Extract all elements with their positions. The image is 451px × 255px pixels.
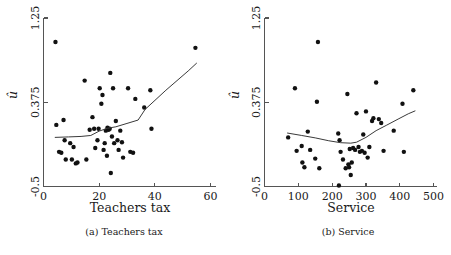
data-point: [114, 119, 118, 123]
data-point: [305, 129, 309, 133]
data-point: [93, 146, 97, 150]
data-point: [118, 128, 122, 132]
data-point: [349, 160, 353, 164]
data-point: [378, 121, 382, 125]
data-point: [99, 101, 103, 105]
data-point: [299, 144, 303, 148]
x-tick-label: 500: [423, 190, 444, 203]
data-point: [411, 88, 415, 92]
data-point: [361, 132, 365, 136]
data-point: [105, 153, 109, 157]
data-points-b: [285, 40, 415, 188]
data-point: [371, 116, 375, 120]
data-point: [365, 155, 369, 159]
data-point: [59, 151, 63, 155]
data-point: [352, 148, 356, 152]
data-point: [348, 173, 352, 177]
data-point: [108, 71, 112, 75]
data-point: [112, 141, 116, 145]
y-ticks-a: -0.50.3751.25: [29, 6, 48, 197]
data-point: [100, 93, 104, 97]
data-point: [96, 127, 100, 131]
y-tick-label: 1.25: [29, 6, 42, 31]
data-point: [346, 165, 350, 169]
x-axis-title-a: Teachers tax: [90, 200, 171, 215]
data-point: [373, 80, 377, 84]
data-point: [116, 148, 120, 152]
data-point: [314, 100, 318, 104]
y-tick-label: 1.25: [249, 6, 262, 31]
y-axis-title-b: û: [227, 91, 242, 99]
y-tick-label: 0.375: [249, 87, 262, 119]
data-point: [109, 171, 113, 175]
data-point: [71, 145, 75, 149]
data-point: [126, 86, 130, 90]
data-point: [98, 86, 102, 90]
data-point: [193, 46, 197, 50]
smoothed-fit-line-b: [287, 111, 415, 143]
chart-body-a: -0.50.3751.25 0204060: [29, 6, 218, 203]
data-point: [121, 155, 125, 159]
data-point: [401, 150, 405, 154]
data-point: [54, 123, 58, 127]
x-tick-label: 400: [389, 190, 410, 203]
y-tick-label: 0.375: [29, 87, 42, 119]
data-point: [61, 118, 65, 122]
data-point: [148, 88, 152, 92]
data-point: [302, 165, 306, 169]
data-point: [87, 127, 91, 131]
data-points-a: [53, 40, 197, 175]
data-point: [101, 148, 105, 152]
x-axis-title-b: Service: [327, 200, 374, 215]
data-point: [92, 127, 96, 131]
data-point: [363, 109, 367, 113]
data-point: [376, 117, 380, 121]
x-tick-label: 60: [203, 190, 217, 203]
smoothed-fit-line-a: [55, 63, 196, 137]
data-point: [82, 78, 86, 82]
data-point: [120, 140, 124, 144]
data-point: [292, 86, 296, 90]
data-point: [391, 128, 395, 132]
chart-body-b: -0.50.3751.25 0100200300400500: [249, 6, 444, 203]
data-point: [400, 101, 404, 105]
x-tick-label: 0: [40, 190, 47, 203]
data-point: [84, 157, 88, 161]
data-point: [110, 134, 114, 138]
x-tick-label: 100: [287, 190, 308, 203]
data-point: [336, 131, 340, 135]
data-point: [62, 138, 66, 142]
data-point: [115, 138, 119, 142]
subcaption-a: (a) Teachers tax: [85, 226, 163, 237]
data-point: [133, 97, 137, 101]
data-point: [307, 148, 311, 152]
data-point: [381, 149, 385, 153]
data-point: [53, 40, 57, 44]
data-point: [285, 135, 289, 139]
data-point: [75, 160, 79, 164]
data-point: [354, 111, 358, 115]
data-point: [294, 149, 298, 153]
data-point: [362, 151, 366, 155]
data-point: [103, 141, 107, 145]
data-point: [317, 166, 321, 170]
scatter-chart-service: -0.50.3751.25 0100200300400500 Service û…: [226, 0, 451, 255]
data-point: [336, 183, 340, 187]
data-point: [367, 145, 371, 149]
data-point: [340, 157, 344, 161]
data-point: [338, 150, 342, 154]
data-point: [315, 40, 319, 44]
y-ticks-b: -0.50.3751.25: [249, 6, 268, 197]
data-point: [95, 138, 99, 142]
data-point: [70, 157, 74, 161]
subcaption-b: (b) Service: [321, 226, 374, 237]
data-point: [300, 160, 304, 164]
y-axis-title-a: û: [5, 91, 20, 99]
data-point: [313, 156, 317, 160]
data-point: [149, 127, 153, 131]
panel-service: -0.50.3751.25 0100200300400500 Service û…: [226, 0, 451, 255]
data-point: [111, 86, 115, 90]
data-point: [345, 92, 349, 96]
data-point: [64, 157, 68, 161]
panel-teachers-tax: -0.50.3751.25 0204060 Teachers tax û (a)…: [0, 0, 226, 255]
